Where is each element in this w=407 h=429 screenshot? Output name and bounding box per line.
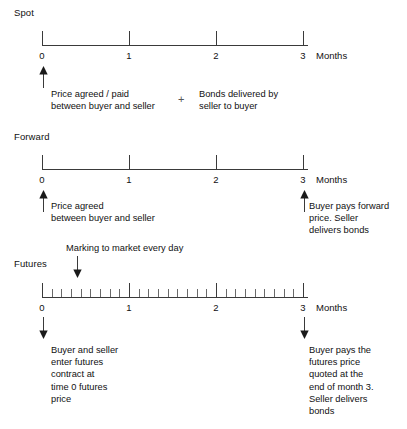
futures-minor-tick	[158, 289, 159, 297]
forward-axis-unit-label: Months	[316, 174, 347, 185]
futures-arrow-down-marking	[72, 256, 83, 278]
forward-tick-label-1: 1	[119, 174, 139, 185]
futures-tick-label-1: 1	[119, 302, 139, 313]
spot-tick-2	[216, 31, 217, 45]
spot-tick-label-0: 0	[32, 50, 52, 61]
futures-tick-label-3: 3	[293, 302, 313, 313]
futures-forward-spot-timeline-diagram: Spot 0 1 2 3 Months Price agreed / paid …	[0, 0, 407, 429]
section-label-forward: Forward	[14, 131, 50, 142]
futures-minor-tick	[148, 289, 149, 297]
forward-note-settlement: Buyer pays forward price. Seller deliver…	[309, 200, 389, 237]
spot-axis-line	[42, 45, 308, 46]
forward-tick-2	[216, 155, 217, 169]
futures-minor-tick	[284, 289, 285, 297]
futures-arrow-down-time3	[299, 317, 310, 339]
spot-axis-unit-label: Months	[316, 50, 347, 61]
futures-tick-label-0: 0	[32, 302, 52, 313]
futures-note-settlement: Buyer pays the futures price quoted at t…	[309, 344, 374, 417]
forward-tick-0	[42, 155, 43, 169]
futures-minor-tick	[139, 289, 140, 297]
futures-axis-unit-label: Months	[316, 302, 347, 313]
futures-minor-tick	[119, 289, 120, 297]
futures-minor-tick	[206, 289, 207, 297]
spot-tick-label-2: 2	[206, 50, 226, 61]
futures-tick-0	[42, 283, 43, 297]
forward-axis-line	[42, 169, 308, 170]
futures-minor-tick	[187, 289, 188, 297]
forward-note-price-agreed: Price agreed between buyer and seller	[51, 200, 155, 224]
section-label-spot: Spot	[14, 7, 34, 18]
spot-tick-0	[42, 31, 43, 45]
futures-minor-tick	[264, 289, 265, 297]
futures-arrow-down-time0	[38, 317, 49, 339]
futures-minor-tick	[81, 289, 82, 297]
futures-minor-tick	[52, 289, 53, 297]
spot-tick-label-1: 1	[119, 50, 139, 61]
spot-note-bonds-delivered: Bonds delivered by seller to buyer	[199, 88, 278, 112]
futures-minor-tick	[293, 289, 294, 297]
futures-minor-tick	[71, 289, 72, 297]
spot-tick-label-3: 3	[293, 50, 313, 61]
spot-tick-3	[303, 31, 304, 45]
forward-tick-label-2: 2	[206, 174, 226, 185]
futures-note-enter-contract: Buyer and seller enter futures contract …	[51, 344, 118, 405]
futures-minor-tick	[168, 289, 169, 297]
spot-plus-sign: +	[178, 93, 184, 105]
forward-arrow-up-time0	[38, 190, 49, 212]
forward-tick-1	[129, 155, 130, 169]
futures-minor-tick	[177, 289, 178, 297]
futures-tick-3	[303, 283, 304, 297]
spot-note-price-agreed: Price agreed / paid between buyer and se…	[51, 88, 155, 112]
spot-arrow-up-time0	[38, 66, 49, 88]
forward-tick-label-0: 0	[32, 174, 52, 185]
futures-minor-tick	[100, 289, 101, 297]
futures-tick-label-2: 2	[206, 302, 226, 313]
futures-tick-1	[129, 283, 130, 297]
futures-axis-line	[42, 297, 308, 298]
forward-tick-3	[303, 155, 304, 169]
futures-minor-tick	[245, 289, 246, 297]
futures-minor-tick	[61, 289, 62, 297]
futures-minor-tick	[226, 289, 227, 297]
futures-minor-tick	[235, 289, 236, 297]
spot-tick-1	[129, 31, 130, 45]
futures-minor-tick	[90, 289, 91, 297]
forward-tick-label-3: 3	[293, 174, 313, 185]
futures-note-marking-to-market: Marking to market every day	[66, 242, 183, 254]
futures-minor-tick	[197, 289, 198, 297]
futures-minor-tick	[274, 289, 275, 297]
futures-tick-2	[216, 283, 217, 297]
futures-minor-tick	[110, 289, 111, 297]
futures-minor-tick	[255, 289, 256, 297]
section-label-futures: Futures	[14, 258, 47, 269]
